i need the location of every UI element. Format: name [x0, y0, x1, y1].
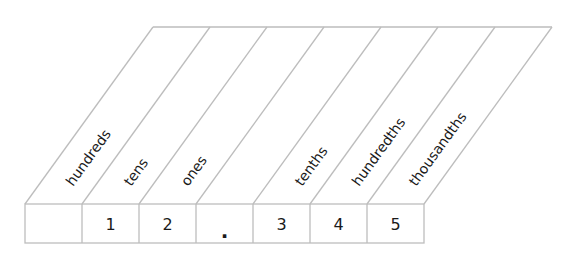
decimal-point: . — [221, 219, 229, 243]
column-label-thousandths: thousandths — [405, 109, 469, 189]
digit-tens: 1 — [105, 215, 115, 234]
digit-tenths: 3 — [276, 215, 286, 234]
column-label-hundreds: hundreds — [62, 126, 114, 189]
digit-hundredths: 4 — [333, 215, 343, 234]
place-value-chart: hundreds tens ones tenths hundredths tho… — [0, 0, 569, 257]
column-label-tens: tens — [120, 155, 151, 189]
digit-thousandths: 5 — [390, 215, 400, 234]
column-label-tenths: tenths — [291, 143, 330, 189]
digit-ones: 2 — [162, 215, 172, 234]
column-label-hundredths: hundredths — [348, 115, 408, 189]
column-label-ones: ones — [177, 152, 210, 188]
